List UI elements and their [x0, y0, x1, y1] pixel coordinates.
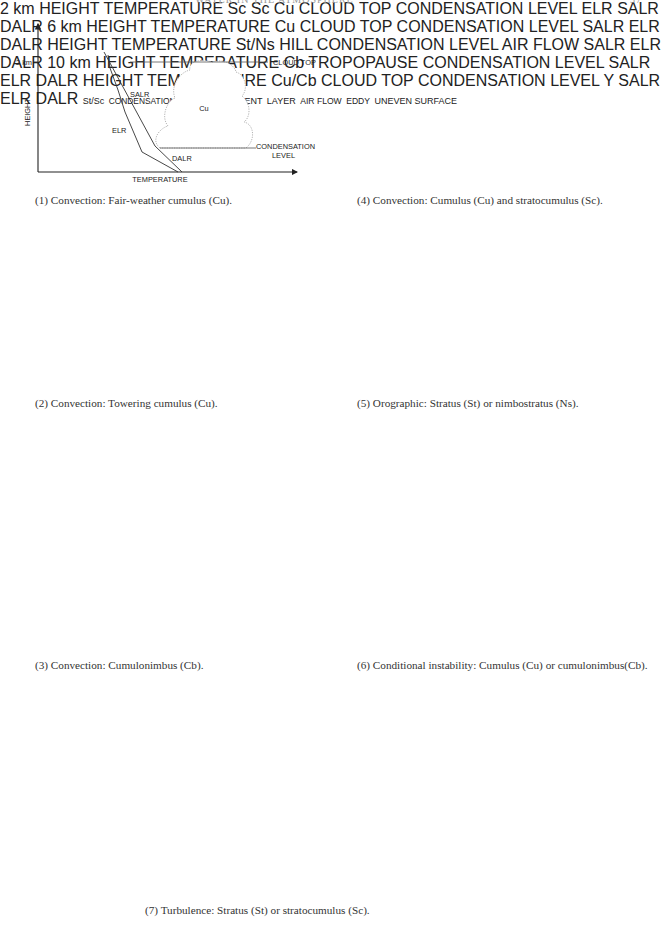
panel-7-caption: (7) Turbulence: Stratus (St) or stratocu… — [145, 904, 370, 916]
cloud-top-label: CLOUD TOP — [273, 58, 316, 67]
elr-label: ELR — [112, 126, 126, 135]
x-axis-label: TEMPERATURE — [132, 175, 187, 184]
condensation-label: CONDENSATION — [256, 142, 315, 151]
panel-6-caption: (6) Conditional instability: Cumulus (Cu… — [357, 659, 648, 671]
y-axis-label: HEIGHT — [23, 98, 32, 126]
salr-label: SALR — [130, 90, 149, 99]
panel-1-caption: (1) Convection: Fair-weather cumulus (Cu… — [35, 194, 232, 206]
dalr-label: DALR — [172, 154, 192, 163]
panel-4-caption: (4) Convection: Cumulus (Cu) and stratoc… — [357, 194, 603, 206]
panel-1-diagram: 2 km HEIGHT TEMPERATURE Cu CLOUD TOP CON… — [16, 24, 316, 184]
height-tick: 2 km — [16, 58, 32, 67]
panel-5-caption: (5) Orographic: Stratus (St) or nimbostr… — [357, 397, 579, 409]
level-label: LEVEL — [272, 151, 295, 160]
panel-3-caption: (3) Convection: Cumulonimbus (Cb). — [35, 659, 203, 671]
diagram-canvas: 2 km HEIGHT TEMPERATURE Cu CLOUD TOP CON… — [0, 0, 661, 933]
cloud-label: Cu — [199, 104, 208, 113]
panel-2-caption: (2) Convection: Towering cumulus (Cu). — [35, 397, 218, 409]
